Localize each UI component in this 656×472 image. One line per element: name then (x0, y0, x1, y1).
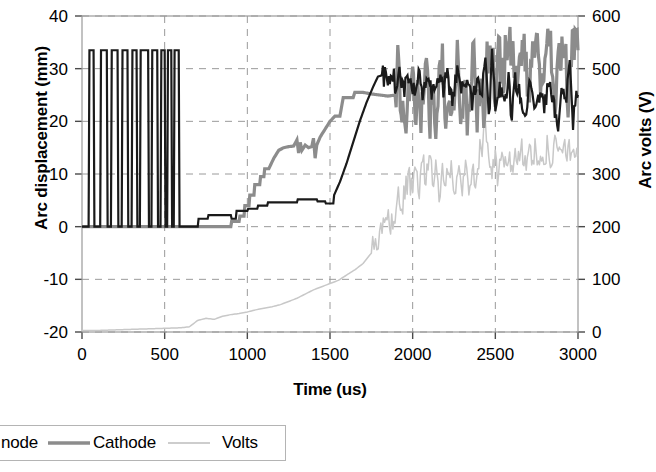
legend-label-cathode: Cathode (93, 433, 156, 453)
tick-label: 0 (59, 218, 68, 237)
tick-label: 2000 (394, 345, 432, 364)
legend-label-anode: node (1, 433, 38, 453)
legend-label-volts: Volts (222, 433, 258, 453)
tick-label: 300 (592, 165, 620, 184)
tick-label: 1000 (228, 345, 266, 364)
tick-label: 2500 (476, 345, 514, 364)
y2-axis-title: Arc volts (V) (636, 60, 656, 220)
tick-label: 500 (150, 345, 178, 364)
tick-label: -20 (43, 323, 68, 342)
tick-label: -10 (43, 270, 68, 289)
tick-label: 0 (77, 345, 86, 364)
legend-swatch-cathode (46, 437, 92, 449)
tick-label: 400 (592, 112, 620, 131)
tick-label: 600 (592, 7, 620, 26)
x-axis-title: Time (us) (230, 380, 430, 400)
tick-label: 200 (592, 218, 620, 237)
y-axis-title: Arc displacement (mm) (32, 38, 52, 238)
tick-label: 100 (592, 270, 620, 289)
bottom-axis-tick-labels: 050010001500200025003000 (77, 345, 597, 364)
chart-svg: -20-10010203040 0100200300400500600 0500… (0, 0, 656, 472)
tick-label: 3000 (559, 345, 597, 364)
right-axis-tick-labels: 0100200300400500600 (592, 7, 620, 342)
legend-swatch-volts (166, 437, 212, 449)
tick-label: 0 (592, 323, 601, 342)
tick-label: 40 (49, 7, 68, 26)
tick-label: 500 (592, 60, 620, 79)
tick-label: 1500 (311, 345, 349, 364)
chart-figure: -20-10010203040 0100200300400500600 0500… (0, 0, 656, 472)
legend-box: node Cathode Volts (0, 425, 286, 461)
